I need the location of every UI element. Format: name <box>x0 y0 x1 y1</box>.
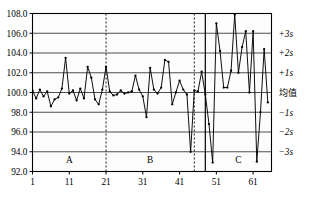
levey-jennings-chart: 108.0106.0104.0102.0100.098.096.094.092.… <box>0 0 324 197</box>
data-point <box>39 88 41 90</box>
sigma-axis-label: −3s <box>279 147 294 157</box>
data-point <box>259 111 261 113</box>
data-point <box>189 151 191 153</box>
data-point <box>127 91 129 93</box>
x-axis-tick-label: 21 <box>101 177 111 187</box>
data-point <box>31 89 33 91</box>
mean-axis-label: 均值 <box>279 87 297 98</box>
data-point <box>186 93 188 95</box>
data-point <box>175 91 177 93</box>
data-point <box>120 89 122 91</box>
data-point <box>153 88 155 90</box>
x-axis-tick-label: 1 <box>30 177 35 187</box>
data-point <box>116 93 118 95</box>
x-axis-tick-label: 31 <box>138 177 148 187</box>
data-point <box>263 48 265 50</box>
data-point <box>72 89 74 91</box>
data-point <box>42 95 44 97</box>
data-point <box>204 93 206 95</box>
data-point <box>149 67 151 69</box>
data-point <box>178 80 180 82</box>
data-point <box>98 103 100 105</box>
data-point <box>94 98 96 100</box>
sigma-axis-label: +3s <box>279 29 294 39</box>
zone-label-c: C <box>235 155 241 165</box>
data-point <box>138 88 140 90</box>
data-point <box>193 89 195 91</box>
data-point <box>256 160 258 162</box>
data-point <box>200 71 202 73</box>
data-point <box>57 96 59 98</box>
y-axis-tick-label: 100.0 <box>7 88 28 98</box>
data-point <box>234 13 236 15</box>
data-point <box>134 75 136 77</box>
data-point <box>230 70 232 72</box>
data-point <box>252 30 254 32</box>
data-point <box>101 88 103 90</box>
y-axis-tick-label: 92.0 <box>11 167 28 177</box>
y-axis-tick-label: 108.0 <box>7 9 28 19</box>
data-point <box>109 90 111 92</box>
sigma-axis-label: +2s <box>279 48 294 58</box>
y-axis-tick-label: 94.0 <box>11 147 28 157</box>
data-point <box>171 103 173 105</box>
data-point <box>105 66 107 68</box>
data-point <box>79 87 81 89</box>
data-point <box>112 94 114 96</box>
data-point <box>50 105 52 107</box>
data-point <box>160 86 162 88</box>
data-point <box>90 77 92 79</box>
data-point <box>156 92 158 94</box>
data-point <box>68 92 70 94</box>
zone-label-b: B <box>147 155 153 165</box>
data-point <box>267 101 269 103</box>
data-point <box>226 86 228 88</box>
data-point <box>223 86 225 88</box>
data-point <box>237 72 239 74</box>
data-point <box>131 90 133 92</box>
sigma-axis-label: −1s <box>279 108 294 118</box>
data-point <box>145 116 147 118</box>
data-point <box>197 90 199 92</box>
data-point <box>167 61 169 63</box>
y-axis-tick-label: 96.0 <box>11 127 28 137</box>
data-point <box>83 97 85 99</box>
data-point <box>248 91 250 93</box>
chart-canvas: 108.0106.0104.0102.0100.098.096.094.092.… <box>0 0 324 197</box>
data-point <box>46 90 48 92</box>
data-point <box>61 87 63 89</box>
y-axis-tick-label: 98.0 <box>11 108 28 118</box>
data-point <box>215 22 217 24</box>
sigma-axis-label: −2s <box>279 127 294 137</box>
data-point <box>64 57 66 59</box>
x-axis-tick-label: 51 <box>212 177 222 187</box>
data-point <box>53 98 55 100</box>
data-point <box>75 99 77 101</box>
x-axis-tick-label: 61 <box>248 177 258 187</box>
zone-label-a: A <box>66 155 73 165</box>
y-axis-tick-label: 104.0 <box>7 48 28 58</box>
data-point <box>182 88 184 90</box>
data-point <box>245 30 247 32</box>
x-axis-tick-label: 11 <box>65 177 74 187</box>
y-axis-tick-label: 106.0 <box>7 29 28 39</box>
data-point <box>123 92 125 94</box>
data-point <box>212 161 214 163</box>
data-point <box>35 97 37 99</box>
data-point <box>219 50 221 52</box>
data-point <box>142 95 144 97</box>
y-axis-tick-label: 102.0 <box>7 68 28 78</box>
x-axis-tick-label: 41 <box>175 177 185 187</box>
data-point <box>87 66 89 68</box>
data-point <box>208 123 210 125</box>
data-point <box>164 59 166 61</box>
data-point <box>241 46 243 48</box>
sigma-axis-label: +1s <box>279 68 294 78</box>
